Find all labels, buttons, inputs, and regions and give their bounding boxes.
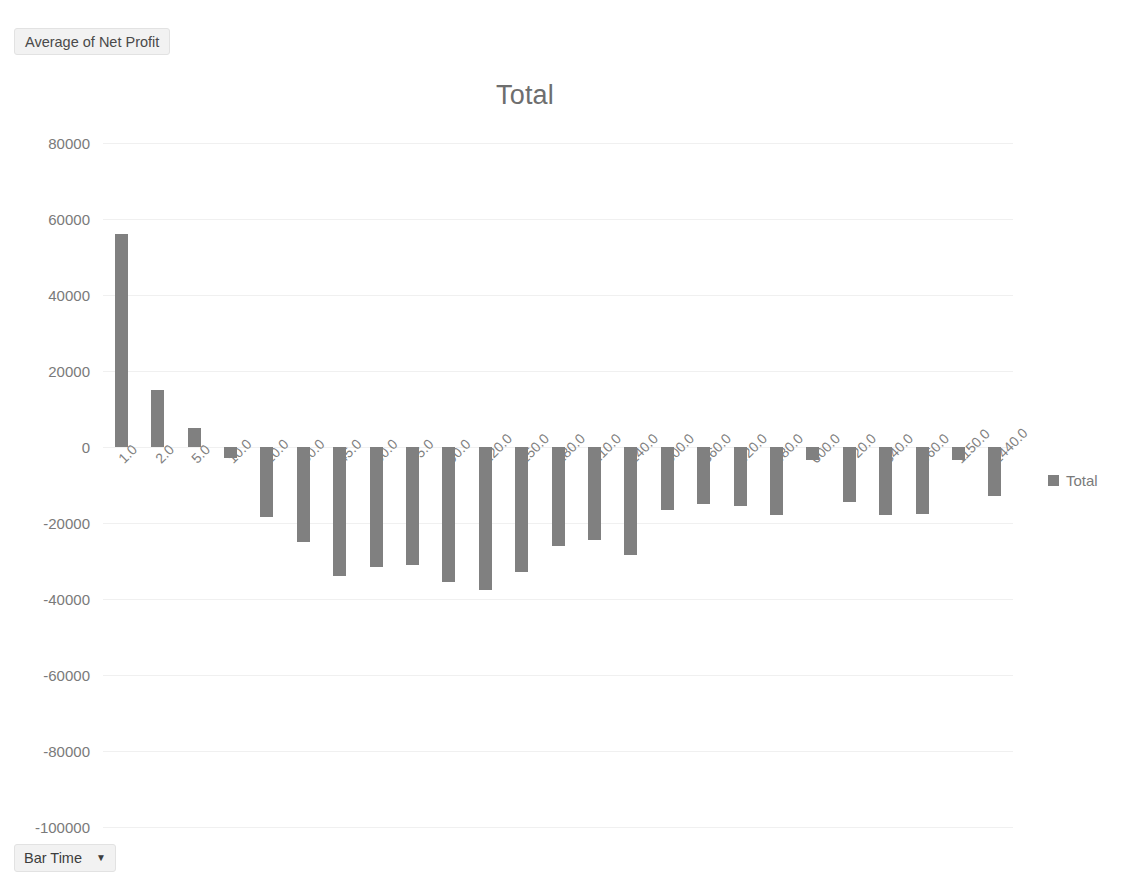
y-axis-tick-label: -40000 (43, 591, 90, 608)
bar[interactable] (297, 447, 310, 542)
bar[interactable] (151, 390, 164, 447)
field-button-label: Average of Net Profit (25, 34, 159, 50)
bar[interactable] (588, 447, 601, 540)
y-axis-tick-label: 80000 (48, 135, 90, 152)
bar[interactable] (188, 428, 201, 447)
bar[interactable] (988, 447, 1001, 496)
bar[interactable] (916, 447, 929, 514)
bar[interactable] (661, 447, 674, 510)
y-axis-tick-label: -100000 (35, 819, 90, 836)
bar[interactable] (734, 447, 747, 506)
bar[interactable] (770, 447, 783, 515)
bar-series-total (103, 143, 1013, 827)
field-button-net-profit[interactable]: Average of Net Profit (14, 28, 170, 55)
bar[interactable] (406, 447, 419, 565)
chart-legend: Total (1048, 472, 1098, 489)
bar[interactable] (479, 447, 492, 590)
bar[interactable] (624, 447, 637, 555)
legend-label-total: Total (1066, 472, 1098, 489)
bar[interactable] (806, 447, 819, 460)
bar[interactable] (115, 234, 128, 447)
chevron-down-icon[interactable]: ▼ (96, 853, 106, 863)
y-axis-tick-label: -60000 (43, 667, 90, 684)
y-axis-tick-label: 40000 (48, 287, 90, 304)
bar[interactable] (333, 447, 346, 576)
axis-field-label: Bar Time (24, 850, 82, 866)
bar[interactable] (879, 447, 892, 515)
bar[interactable] (224, 447, 237, 458)
axis-field-button-bar-time[interactable]: Bar Time ▼ (14, 844, 116, 872)
legend-swatch-total (1048, 475, 1059, 486)
y-axis-tick-label: 60000 (48, 211, 90, 228)
y-axis-tick-label: 20000 (48, 363, 90, 380)
bar[interactable] (843, 447, 856, 502)
y-axis-tick-label: 0 (82, 439, 90, 456)
gridline (103, 827, 1013, 828)
plot-area: 1.02.05.010.020.030.045.060.075.090.0120… (103, 143, 1013, 827)
bar[interactable] (552, 447, 565, 546)
bar[interactable] (697, 447, 710, 504)
bar[interactable] (442, 447, 455, 582)
pivot-chart: Total 1.02.05.010.020.030.045.060.075.09… (0, 60, 1136, 840)
bar[interactable] (515, 447, 528, 572)
y-axis-tick-label: -20000 (43, 515, 90, 532)
bar[interactable] (370, 447, 383, 567)
chart-title: Total (0, 80, 1050, 111)
bar[interactable] (260, 447, 273, 517)
bar[interactable] (952, 447, 965, 460)
y-axis-tick-label: -80000 (43, 743, 90, 760)
